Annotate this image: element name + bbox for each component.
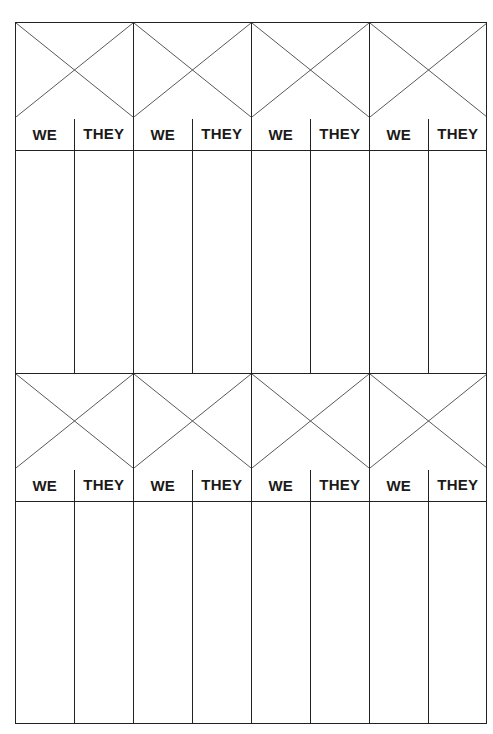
we-score-column[interactable]	[252, 151, 311, 373]
column-header: WE THEY	[133, 468, 251, 501]
score-sheet: WE THEY WE THEY WE THEY	[15, 22, 487, 724]
crossed-box	[369, 373, 487, 468]
crossed-box	[133, 373, 251, 468]
crossed-box	[133, 22, 251, 117]
sheet-bottom-border	[15, 723, 487, 725]
we-label: WE	[134, 470, 193, 501]
they-label: THEY	[311, 117, 370, 150]
column-header: WE THEY	[133, 117, 251, 150]
they-score-column[interactable]	[193, 502, 252, 724]
they-score-column[interactable]	[75, 151, 134, 373]
column-header: WE THEY	[15, 468, 133, 501]
column-header: WE THEY	[251, 468, 369, 501]
they-label: THEY	[75, 468, 134, 501]
game-column: WE THEY	[369, 22, 487, 373]
column-header: WE THEY	[369, 117, 487, 150]
we-score-column[interactable]	[134, 502, 193, 724]
we-score-column[interactable]	[16, 502, 75, 724]
we-label: WE	[252, 470, 311, 501]
we-label: WE	[16, 119, 75, 150]
we-label: WE	[370, 119, 429, 150]
we-score-column[interactable]	[252, 502, 311, 724]
crossed-box	[251, 373, 369, 468]
score-block-bottom: WE THEY WE THEY WE THEY	[15, 373, 487, 724]
score-area	[251, 150, 369, 373]
score-area	[251, 501, 369, 724]
they-score-column[interactable]	[311, 502, 370, 724]
we-label: WE	[16, 470, 75, 501]
game-column: WE THEY	[251, 22, 369, 373]
they-score-column[interactable]	[429, 502, 488, 724]
game-column: WE THEY	[251, 373, 369, 724]
game-column: WE THEY	[15, 22, 133, 373]
they-label: THEY	[193, 468, 252, 501]
crossed-box	[369, 22, 487, 117]
they-score-column[interactable]	[193, 151, 252, 373]
score-area	[133, 501, 251, 724]
they-label: THEY	[311, 468, 370, 501]
we-label: WE	[252, 119, 311, 150]
column-header: WE THEY	[15, 117, 133, 150]
score-area	[15, 501, 133, 724]
score-area	[15, 150, 133, 373]
they-score-column[interactable]	[429, 151, 488, 373]
sheet-right-border	[486, 22, 488, 724]
we-score-column[interactable]	[16, 151, 75, 373]
they-score-column[interactable]	[311, 151, 370, 373]
they-label: THEY	[429, 468, 488, 501]
we-score-column[interactable]	[134, 151, 193, 373]
we-score-column[interactable]	[370, 502, 429, 724]
game-column: WE THEY	[369, 373, 487, 724]
crossed-box	[15, 373, 133, 468]
column-header: WE THEY	[369, 468, 487, 501]
score-area	[369, 150, 487, 373]
crossed-box	[251, 22, 369, 117]
we-label: WE	[134, 119, 193, 150]
they-label: THEY	[193, 117, 252, 150]
column-header: WE THEY	[251, 117, 369, 150]
they-label: THEY	[75, 117, 134, 150]
game-column: WE THEY	[133, 22, 251, 373]
score-area	[133, 150, 251, 373]
we-label: WE	[370, 470, 429, 501]
we-score-column[interactable]	[370, 151, 429, 373]
score-block-top: WE THEY WE THEY WE THEY	[15, 22, 487, 373]
they-score-column[interactable]	[75, 502, 134, 724]
they-label: THEY	[429, 117, 488, 150]
game-column: WE THEY	[133, 373, 251, 724]
crossed-box	[15, 22, 133, 117]
score-area	[369, 501, 487, 724]
game-column: WE THEY	[15, 373, 133, 724]
